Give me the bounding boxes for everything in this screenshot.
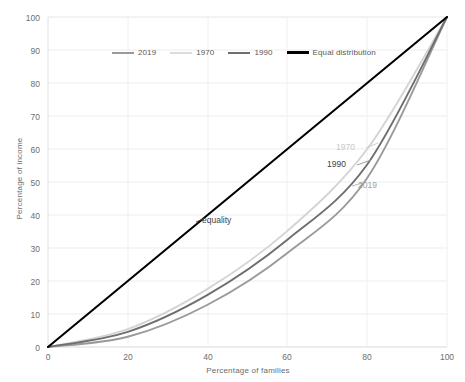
legend-item-1970[interactable]: 1970: [170, 48, 214, 57]
lorenz-curve-chart: 100 90 80 70 60 50 40 30 20 10 0 0 20 40…: [0, 0, 465, 382]
annotation-equality: equality: [202, 215, 231, 225]
legend-swatch-2019: [112, 52, 134, 54]
legend-item-2019[interactable]: 2019: [112, 48, 156, 57]
legend-label-equal-distribution: Equal distribution: [313, 48, 376, 57]
plot-area: [0, 0, 465, 382]
chart-legend: 2019 1970 1990 Equal distribution: [112, 48, 390, 57]
legend-label-1970: 1970: [196, 48, 214, 57]
annotation-1970: 1970: [336, 142, 355, 152]
legend-label-2019: 2019: [138, 48, 156, 57]
legend-item-1990[interactable]: 1990: [228, 48, 272, 57]
legend-swatch-1970: [170, 52, 192, 54]
legend-item-equal-distribution[interactable]: Equal distribution: [287, 48, 376, 57]
annotation-1990: 1990: [327, 159, 346, 169]
legend-swatch-1990: [228, 52, 250, 54]
legend-label-1990: 1990: [254, 48, 272, 57]
annotation-2019: 2019: [358, 180, 377, 190]
legend-swatch-equal-distribution: [287, 51, 309, 54]
